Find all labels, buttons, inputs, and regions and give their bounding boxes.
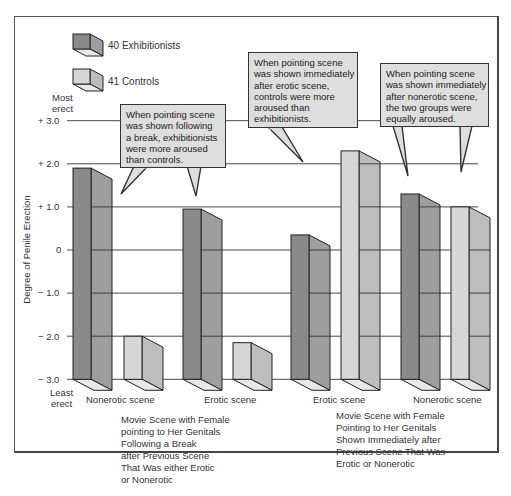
xlabel-group4: Nonerotic scene <box>413 394 482 405</box>
legend-icons <box>73 34 103 91</box>
ytick-label: + 2.0 <box>38 158 59 169</box>
xlabel-group3: Erotic scene <box>313 394 365 405</box>
callout-break: When pointing scene was shown following … <box>120 104 226 168</box>
caption-break: Movie Scene with Female pointing to Her … <box>121 414 230 486</box>
y-axis-title: Degree of Penile Erection <box>21 190 32 310</box>
bar <box>183 209 222 390</box>
bar <box>124 336 163 390</box>
bars <box>73 151 490 390</box>
legend-controls: 41 Controls <box>108 76 159 87</box>
caption-immediate: Movie Scene with Female Pointing to Her … <box>336 410 445 470</box>
bar <box>341 151 380 390</box>
most-label: Most <box>52 92 73 103</box>
bar <box>451 207 490 390</box>
callout-erotic: When pointing scene was shown immediatel… <box>248 52 358 128</box>
ytick-label: − 2.0 <box>38 331 59 342</box>
legend-exhibitionists: 40 Exhibitionists <box>108 40 180 51</box>
erect-label-bottom: erect <box>51 398 72 409</box>
ytick-label: + 3.0 <box>38 115 59 126</box>
ytick-label: + 1.0 <box>38 201 59 212</box>
xlabel-group1: Nonerotic scene <box>86 394 155 405</box>
least-label: Least <box>50 387 73 398</box>
ytick-label: 0 <box>56 244 61 255</box>
bar <box>73 168 112 390</box>
erect-label-top: erect <box>52 103 73 114</box>
bar <box>291 235 330 390</box>
xlabel-group2: Erotic scene <box>204 394 256 405</box>
ytick-label: − 1.0 <box>38 287 59 298</box>
bar <box>401 194 440 390</box>
ytick-label: − 3.0 <box>38 374 59 385</box>
bar <box>233 343 272 391</box>
callout-nonerotic: When pointing scene was shown immediatel… <box>380 63 489 127</box>
